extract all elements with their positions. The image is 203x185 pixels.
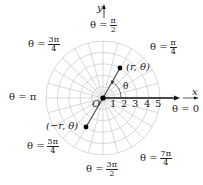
- x-axis-label: x: [192, 87, 198, 97]
- radial-tick-4: 4: [144, 99, 150, 109]
- radial-tick-5: 5: [155, 99, 161, 109]
- y-axis-label: y: [97, 3, 103, 13]
- angle-label-0: θ = 0: [172, 104, 199, 114]
- point-positive-label: (r, θ): [126, 62, 150, 72]
- angle-label-pi-over-4: θ =π4: [150, 39, 177, 56]
- origin-point: [100, 95, 105, 100]
- angle-theta-label: θ: [123, 82, 128, 91]
- angle-label-3pi-over-2: θ =3π2: [86, 161, 118, 178]
- point-positive: [118, 66, 123, 71]
- angle-label-pi-over-2: θ =π2: [90, 17, 117, 34]
- point-negative: [84, 125, 89, 130]
- radial-tick-3: 3: [132, 99, 138, 109]
- x-axis: [103, 96, 199, 101]
- polar-diagram: y x O 1 2 3 4 5 θ (r, θ) (−r, θ) θ = 0 θ…: [0, 0, 203, 185]
- angle-label-pi: θ = π: [9, 92, 36, 102]
- point-negative-label: (−r, θ): [46, 121, 78, 131]
- angle-label-3pi-over-4: θ =3π4: [28, 36, 60, 53]
- angle-label-5pi-over-4: θ =5π4: [27, 138, 59, 155]
- origin-label: O: [92, 99, 100, 109]
- radial-tick-2: 2: [121, 99, 127, 109]
- angle-label-7pi-over-4: θ =7π4: [140, 150, 172, 167]
- radial-tick-1: 1: [110, 99, 116, 109]
